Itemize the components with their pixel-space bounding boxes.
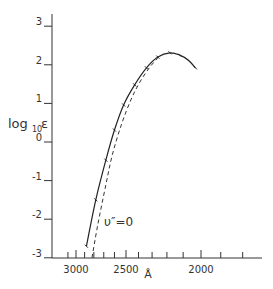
x-axis-unit-label: Å [144, 268, 152, 281]
y-axis-label-main: log [8, 116, 28, 131]
y-axis: 3210-1-2-3 [32, 14, 52, 259]
absorption-chart: 3210-1-2-3 300025002000 log 10 ε Å υ″=0 [0, 0, 273, 289]
y-tick-label: -3 [32, 248, 42, 259]
y-axis-label-sym: ε [41, 116, 48, 131]
observed-curve [86, 53, 195, 246]
x-tick-label: 2500 [113, 264, 138, 275]
y-axis-label: log 10 ε [8, 116, 48, 134]
y-tick-label: 1 [36, 93, 42, 104]
x-tick-label: 3000 [63, 264, 88, 275]
x-axis: 300025002000 [52, 250, 262, 275]
data-point-mark [194, 66, 197, 69]
v0-annotation: υ″=0 [104, 215, 133, 229]
y-tick-label: 3 [36, 16, 42, 27]
data-point-mark [187, 59, 190, 62]
y-tick-label: 2 [36, 55, 42, 66]
x-tick-label: 2000 [188, 264, 213, 275]
y-tick-label: -1 [32, 171, 42, 182]
y-tick-label: -2 [32, 209, 42, 220]
